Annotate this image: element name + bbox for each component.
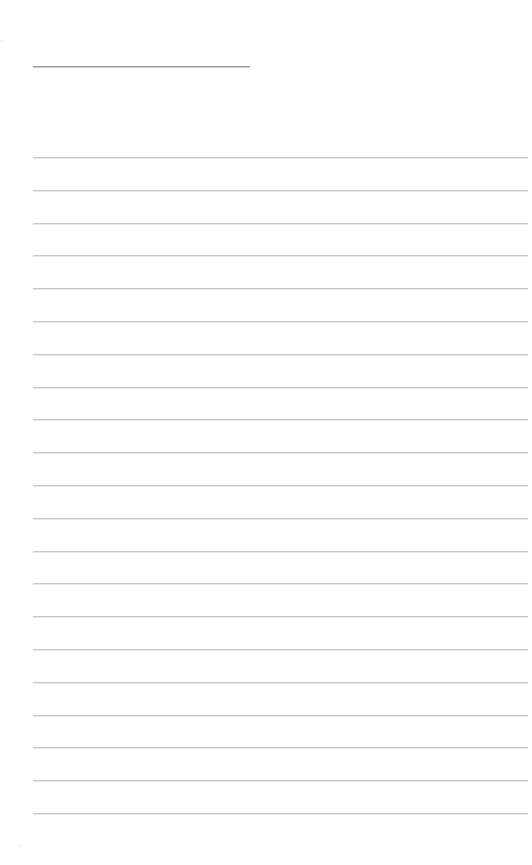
- rule-line: [33, 583, 528, 584]
- rule-line: [33, 354, 528, 355]
- rule-line: [33, 288, 528, 289]
- write-slot-2[interactable]: [33, 161, 528, 190]
- write-slot-18[interactable]: [33, 686, 528, 715]
- write-slot-20[interactable]: [33, 751, 528, 780]
- write-slot-8[interactable]: [33, 358, 528, 387]
- rule-line: [33, 649, 528, 650]
- write-slot-13[interactable]: [33, 522, 528, 551]
- write-slot-21[interactable]: [33, 784, 528, 813]
- rule-line: [33, 616, 528, 617]
- rule-line: [33, 682, 528, 683]
- write-slot-9[interactable]: [33, 391, 528, 420]
- rule-line: [33, 387, 528, 388]
- rule-line: [33, 551, 528, 552]
- rule-line: [33, 813, 528, 814]
- rule-line: [33, 255, 528, 256]
- rule-line: [33, 419, 528, 420]
- rule-line: [33, 223, 528, 224]
- rule-line: [33, 190, 528, 191]
- rule-line: [33, 321, 528, 322]
- rule-line: [33, 747, 528, 748]
- write-slot-14[interactable]: [33, 555, 528, 584]
- write-slot-11[interactable]: [33, 456, 528, 485]
- title-rule: [33, 66, 250, 67]
- write-slot-5[interactable]: [33, 259, 528, 288]
- rule-line: [33, 157, 528, 158]
- ruled-note-page: [0, 0, 532, 865]
- write-slot-3[interactable]: [33, 194, 528, 223]
- rule-line: [33, 452, 528, 453]
- rule-line: [33, 518, 528, 519]
- write-slot-10[interactable]: [33, 423, 528, 452]
- rule-line: [33, 715, 528, 716]
- rule-line: [33, 485, 528, 486]
- write-slot-15[interactable]: [33, 587, 528, 616]
- write-slot-4[interactable]: [33, 227, 528, 256]
- write-slot-19[interactable]: [33, 719, 528, 748]
- write-slot-17[interactable]: [33, 653, 528, 682]
- write-slot-7[interactable]: [33, 325, 528, 354]
- paper-speckle: [19, 844, 22, 847]
- paper-edge-mark: [0, 40, 4, 42]
- write-slot-12[interactable]: [33, 489, 528, 518]
- title-write-slot[interactable]: [33, 46, 250, 66]
- rule-line: [33, 780, 528, 781]
- write-slot-1[interactable]: [33, 128, 528, 157]
- write-slot-6[interactable]: [33, 292, 528, 321]
- write-slot-16[interactable]: [33, 620, 528, 649]
